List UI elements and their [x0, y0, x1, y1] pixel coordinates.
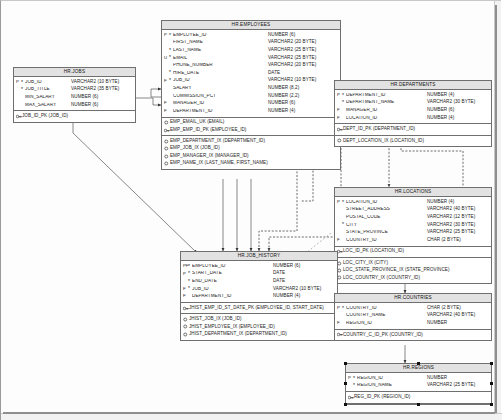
- columns-section: P * JOB_ID VARCHAR2 (10 BYTE) * JOB_TITL…: [14, 77, 135, 111]
- column-name: COMMISSION_PCT: [173, 94, 268, 99]
- index-row[interactable]: DEPT_LOCATION_IX (LOCATION_ID): [335, 137, 491, 144]
- column-name: JOB_ID: [173, 78, 268, 83]
- column-row[interactable]: *HIRE_DATEDATE: [162, 69, 340, 77]
- column-row[interactable]: *DEPARTMENT_NAMEVARCHAR2 (30 BYTE): [335, 99, 491, 107]
- column-name: MANAGER_ID: [346, 108, 427, 113]
- keys-section: JHIST_EMP_ID_ST_DATE_PK (EMPLOYEE_ID, ST…: [181, 303, 337, 314]
- index-row[interactable]: EMP_NAME_IX (LAST_NAME, FIRST_NAME): [162, 160, 340, 167]
- column-row[interactable]: FDEPARTMENT_IDNUMBER (4): [162, 107, 340, 115]
- entity-hr-countries[interactable]: HR.COUNTRIES P*COUNTRY_IDCHAR (2 BYTE)CO…: [334, 293, 492, 341]
- column-type: DATE: [268, 71, 338, 76]
- index-row[interactable]: LOC_STATE_PROVINCE_IX (STATE_PROVINCE): [335, 267, 491, 274]
- constraint-row[interactable]: DEPT_ID_PK (DEPARTMENT_ID): [335, 126, 491, 133]
- column-type: NUMBER (8,2): [268, 86, 338, 91]
- column-row[interactable]: COUNTRY_NAMEVARCHAR2 (40 BYTE): [335, 312, 491, 320]
- entity-hr-regions[interactable]: HR.REGIONS P*REGION_IDNUMBER*REGION_NAME…: [345, 363, 492, 405]
- column-row[interactable]: FIRST_NAMEVARCHAR2 (20 BYTE): [162, 39, 340, 47]
- column-row[interactable]: STATE_PROVINCEVARCHAR2 (25 BYTE): [335, 229, 491, 237]
- index-row[interactable]: LOC_COUNTRY_IX (COUNTRY_ID): [335, 274, 491, 281]
- column-row[interactable]: MIN_SALARY NUMBER (6): [14, 94, 135, 102]
- selection-handle[interactable]: [344, 382, 347, 385]
- selection-handle[interactable]: [417, 403, 420, 406]
- column-row[interactable]: FMANAGER_IDNUMBER (6): [162, 100, 340, 108]
- selection-handle[interactable]: [490, 362, 493, 365]
- entity-title: HR.REGIONS: [346, 364, 491, 373]
- column-row[interactable]: F*JOB_IDVARCHAR2 (10 BYTE): [181, 285, 337, 293]
- column-row[interactable]: FMANAGER_IDNUMBER (6): [335, 107, 491, 115]
- selection-handle[interactable]: [417, 362, 420, 365]
- column-row[interactable]: STREET_ADDRESSVARCHAR2 (40 BYTE): [335, 206, 491, 214]
- column-name: STREET_ADDRESS: [346, 207, 427, 212]
- column-type: VARCHAR2 (35 BYTE): [71, 87, 133, 92]
- index-row[interactable]: EMP_DEPARTMENT_IX (DEPARTMENT_ID): [162, 138, 340, 145]
- column-row[interactable]: FREGION_IDNUMBER: [335, 320, 491, 328]
- entity-hr-departments[interactable]: HR.DEPARTMENTS P*DEPARTMENT_IDNUMBER (4)…: [334, 80, 492, 147]
- index-row[interactable]: EMP_JOB_IX (JOB_ID): [162, 145, 340, 152]
- constraint-row[interactable]: LOC_ID_PK (LOCATION_ID): [335, 248, 491, 255]
- index-label: JHIST_JOB_IX (JOB_ID): [189, 317, 242, 322]
- column-row[interactable]: P*COUNTRY_IDCHAR (2 BYTE): [335, 305, 491, 313]
- column-row[interactable]: FDEPARTMENT_IDNUMBER (4): [181, 293, 337, 301]
- column-name: MIN_SALARY: [25, 95, 71, 100]
- column-row[interactable]: U*EMAILVARCHAR2 (25 BYTE): [162, 54, 340, 62]
- selection-handle[interactable]: [344, 362, 347, 365]
- constraint-row[interactable]: REG_ID_PK (REGION_ID): [346, 394, 491, 401]
- column-row[interactable]: *REGION_NAMEVARCHAR2 (25 BYTE): [346, 382, 491, 390]
- entity-hr-job-history[interactable]: HR.JOB_HISTORY PF*EMPLOYEE_IDNUMBER (6)P…: [180, 251, 338, 341]
- column-row[interactable]: P*START_DATEDATE: [181, 270, 337, 278]
- column-name: LOCATION_ID: [346, 200, 427, 205]
- column-type: NUMBER (6): [268, 101, 338, 106]
- key-marker: F: [337, 321, 342, 326]
- column-row[interactable]: *END_DATEDATE: [181, 278, 337, 286]
- columns-section: P*REGION_IDNUMBER*REGION_NAMEVARCHAR2 (2…: [346, 373, 491, 392]
- constraint-row[interactable]: EMP_EMP_ID_PK (EMPLOYEE_ID): [162, 126, 340, 133]
- index-row[interactable]: JHIST_JOB_IX (JOB_ID): [181, 316, 337, 323]
- column-row[interactable]: PHONE_NUMBERVARCHAR2 (20 BYTE): [162, 62, 340, 70]
- entity-hr-locations[interactable]: HR.LOCATIONS P*LOCATION_IDNUMBER (4)STRE…: [334, 187, 492, 284]
- selection-handle[interactable]: [490, 403, 493, 406]
- index-row[interactable]: JHIST_EMPLOYEE_IX (EMPLOYEE_ID): [181, 323, 337, 330]
- column-row[interactable]: *CITYVARCHAR2 (30 BYTE): [335, 221, 491, 229]
- column-row[interactable]: P*DEPARTMENT_IDNUMBER (4): [335, 92, 491, 100]
- constraint-row[interactable]: JHIST_EMP_ID_ST_DATE_PK (EMPLOYEE_ID, ST…: [181, 304, 337, 311]
- index-row[interactable]: EMP_MANAGER_IX (MANAGER_ID): [162, 153, 340, 160]
- column-row[interactable]: * JOB_TITLE VARCHAR2 (35 BYTE): [14, 86, 135, 94]
- column-name: LAST_NAME: [173, 48, 268, 53]
- column-type: VARCHAR2 (25 BYTE): [427, 383, 489, 388]
- selection-handle[interactable]: [344, 403, 347, 406]
- selection-handle[interactable]: [490, 382, 493, 385]
- constraint-row[interactable]: JOB_ID_PK (JOB_ID): [14, 113, 135, 120]
- entity-hr-employees[interactable]: HR.EMPLOYEES P*EMPLOYEE_IDNUMBER (6)FIRS…: [161, 20, 341, 170]
- column-row[interactable]: P*REGION_IDNUMBER: [346, 375, 491, 383]
- key-marker: F: [164, 101, 169, 106]
- constraint-label: REG_ID_PK (REGION_ID): [354, 395, 410, 400]
- column-row[interactable]: POSTAL_CODEVARCHAR2 (12 BYTE): [335, 214, 491, 222]
- column-name: SALARY: [173, 86, 268, 91]
- index-row[interactable]: JHIST_DEPARTMENT_IX (DEPARTMENT_ID): [181, 331, 337, 338]
- column-type: NUMBER (6): [71, 95, 133, 100]
- column-type: VARCHAR2 (25 BYTE): [427, 230, 489, 235]
- column-row[interactable]: PF*EMPLOYEE_IDNUMBER (6): [181, 263, 337, 271]
- constraint-row[interactable]: COUNTRY_C_ID_PK (COUNTRY_ID): [335, 331, 491, 338]
- column-row[interactable]: P * JOB_ID VARCHAR2 (10 BYTE): [14, 79, 135, 87]
- column-row[interactable]: P*LOCATION_IDNUMBER (4): [335, 199, 491, 207]
- index-label: EMP_JOB_IX (JOB_ID): [170, 146, 220, 151]
- index-row[interactable]: LOC_CITY_IX (CITY): [335, 259, 491, 266]
- entity-title: HR.COUNTRIES: [335, 294, 491, 303]
- constraint-row[interactable]: EMP_EMAIL_UK (EMAIL): [162, 119, 340, 126]
- column-row[interactable]: P*EMPLOYEE_IDNUMBER (6): [162, 32, 340, 40]
- column-row[interactable]: FCOUNTRY_IDCHAR (2 BYTE): [335, 236, 491, 244]
- entity-hr-jobs[interactable]: HR.JOBS P * JOB_ID VARCHAR2 (10 BYTE) * …: [13, 67, 136, 123]
- column-row[interactable]: FLOCATION_IDNUMBER (4): [335, 114, 491, 122]
- column-type: VARCHAR2 (40 BYTE): [427, 313, 489, 318]
- column-type: NUMBER (4): [427, 200, 489, 205]
- column-row[interactable]: MAX_SALARY NUMBER (6): [14, 101, 135, 109]
- column-name: JOB_ID: [25, 80, 71, 85]
- column-row[interactable]: SALARYNUMBER (8,2): [162, 85, 340, 93]
- column-row[interactable]: F*JOB_IDVARCHAR2 (10 BYTE): [162, 77, 340, 85]
- column-type: VARCHAR2 (25 BYTE): [268, 56, 338, 61]
- column-row[interactable]: *LAST_NAMEVARCHAR2 (25 BYTE): [162, 47, 340, 55]
- column-type: CHAR (2 BYTE): [427, 238, 489, 243]
- column-row[interactable]: COMMISSION_PCTNUMBER (2,2): [162, 92, 340, 100]
